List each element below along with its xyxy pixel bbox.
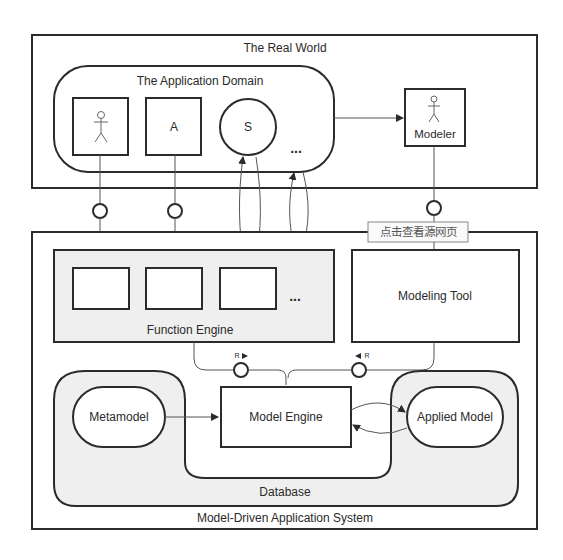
- model-engine-label: Model Engine: [249, 410, 323, 424]
- r-label-left: R: [234, 352, 239, 359]
- modeler-label: Modeler: [414, 128, 456, 140]
- applied-model-node: Applied Model: [407, 387, 503, 447]
- domain-a-box: A: [146, 98, 201, 155]
- real-world-title: The Real World: [243, 41, 326, 55]
- domain-s-circle: S: [220, 99, 276, 155]
- architecture-diagram: The Real World The Application Domain A …: [0, 0, 563, 560]
- application-domain-title: The Application Domain: [137, 74, 264, 88]
- modeling-tool-title: Modeling Tool: [398, 289, 472, 303]
- database-label: Database: [259, 485, 311, 499]
- r-label-right: R: [364, 352, 369, 359]
- metamodel-label: Metamodel: [89, 410, 148, 424]
- function-engine: ... Function Engine: [54, 250, 334, 342]
- function-engine-ellipsis: ...: [289, 288, 301, 304]
- system-title: Model-Driven Application System: [197, 511, 373, 525]
- domain-a-label: A: [170, 120, 178, 134]
- domain-ellipsis: ...: [290, 140, 302, 156]
- model-engine-node: Model Engine: [221, 387, 351, 447]
- application-domain: The Application Domain A S ...: [54, 66, 334, 172]
- domain-actor-box: [73, 98, 128, 155]
- modeler-box: Modeler: [405, 89, 465, 146]
- metamodel-node: Metamodel: [73, 387, 165, 447]
- modeling-tool: Modeling Tool: [352, 250, 519, 342]
- watermark-text: 点击查看源网页: [380, 225, 457, 238]
- database: Database Metamodel Model Engine Applied …: [54, 371, 518, 506]
- function-engine-title: Function Engine: [147, 323, 234, 337]
- watermark-label[interactable]: 点击查看源网页: [368, 222, 468, 242]
- applied-model-label: Applied Model: [417, 410, 493, 424]
- domain-s-label: S: [244, 120, 252, 134]
